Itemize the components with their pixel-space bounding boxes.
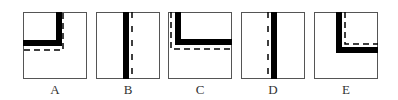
- panel-label-a: A: [23, 82, 87, 98]
- panel-label-d: D: [241, 82, 305, 98]
- panel-e: [314, 12, 378, 79]
- panel-frame: [315, 13, 378, 79]
- panel-label-c: C: [168, 82, 232, 98]
- panel-label-b: B: [96, 82, 160, 98]
- solid-vertical-bar: [271, 12, 277, 79]
- panel-b: [96, 12, 160, 79]
- panel-a: [23, 12, 87, 79]
- solid-vertical-bar: [123, 12, 129, 79]
- panel-label-e: E: [314, 82, 378, 98]
- panel-c: [168, 12, 232, 79]
- panel-d: [241, 12, 305, 79]
